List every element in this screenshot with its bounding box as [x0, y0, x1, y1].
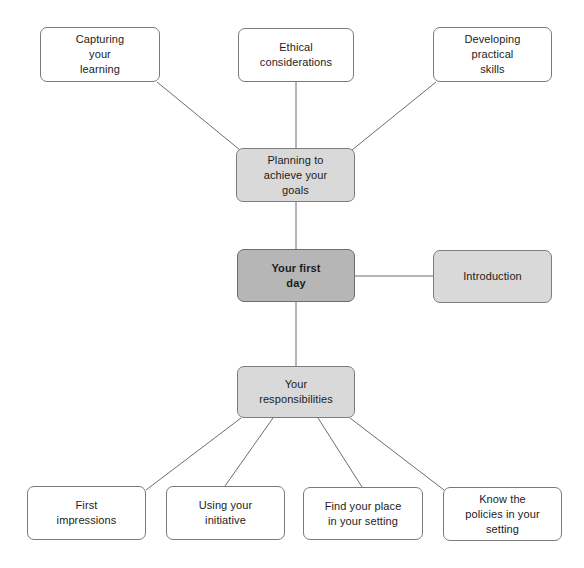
node-first-impressions[interactable]: First impressions: [27, 486, 146, 540]
node-using-your-initiative[interactable]: Using your initiative: [166, 486, 285, 540]
node-developing-practical-skills[interactable]: Developing practical skills: [433, 27, 552, 82]
node-capturing-your-learning[interactable]: Capturing your learning: [40, 27, 160, 82]
connector-developing-to-planning: [352, 82, 436, 150]
node-your-first-day[interactable]: Your first day: [237, 249, 355, 302]
node-label-your-first-day: Your first day: [265, 261, 326, 291]
node-label-planning-to-achieve-your-goals: Planning to achieve your goals: [258, 153, 334, 198]
node-label-your-responsibilities: Your responsibilities: [253, 377, 339, 407]
connector-capturing-to-planning: [157, 82, 240, 150]
node-planning-to-achieve-your-goals[interactable]: Planning to achieve your goals: [236, 148, 355, 202]
connector-responsibilities-to-using-initiative: [225, 418, 273, 486]
node-label-ethical-considerations: Ethical considerations: [254, 40, 338, 70]
node-label-know-the-policies-in-your-setting: Know the policies in your setting: [459, 492, 545, 537]
node-ethical-considerations[interactable]: Ethical considerations: [238, 28, 354, 82]
node-label-developing-practical-skills: Developing practical skills: [458, 32, 526, 77]
node-label-introduction: Introduction: [457, 269, 528, 284]
node-find-your-place-in-your-setting[interactable]: Find your place in your setting: [303, 487, 423, 540]
connector-responsibilities-to-first-impressions: [146, 418, 241, 490]
connector-responsibilities-to-find-your-place: [318, 418, 362, 487]
node-know-the-policies-in-your-setting[interactable]: Know the policies in your setting: [443, 487, 562, 541]
node-your-responsibilities[interactable]: Your responsibilities: [237, 366, 355, 418]
node-label-find-your-place-in-your-setting: Find your place in your setting: [319, 499, 408, 529]
connector-responsibilities-to-know-policies: [350, 418, 444, 490]
node-introduction[interactable]: Introduction: [433, 250, 552, 303]
node-label-first-impressions: First impressions: [51, 498, 123, 528]
mind-map-diagram: Capturing your learningEthical considera…: [0, 0, 584, 568]
node-label-capturing-your-learning: Capturing your learning: [70, 32, 131, 77]
node-label-using-your-initiative: Using your initiative: [193, 498, 259, 528]
